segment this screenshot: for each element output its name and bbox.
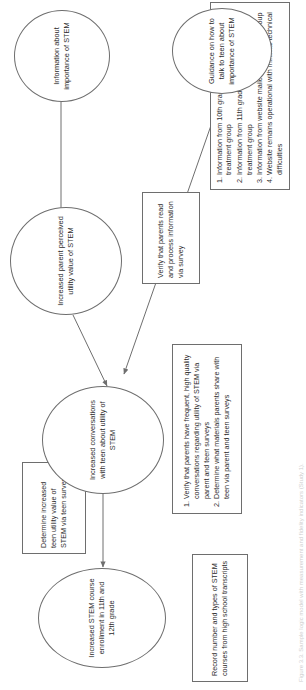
node-label: Guidance on how to talk to teen about im…	[207, 16, 237, 86]
node-outcome-stem-enrollment[interactable]: Increased STEM course enrollment in 11th…	[38, 568, 166, 668]
node-measure-conversations[interactable]: Verify that parents have frequent, high …	[172, 344, 242, 514]
node-label-list: Verify that parents have frequent, high …	[182, 350, 232, 508]
edge-parentutility-to-conversations	[73, 315, 107, 386]
node-label: Record number and types of STEM courses …	[210, 560, 230, 676]
node-input-information[interactable]: Information about importance of STEM	[14, 10, 110, 102]
figure-caption: Figure 3.3. Sample logic model with meas…	[298, 463, 304, 682]
node-input-guidance[interactable]: Guidance on how to talk to teen about im…	[172, 8, 272, 94]
node-label: Information about importance of STEM	[52, 18, 72, 94]
node-outcome-conversations[interactable]: Increased conversations with teen about …	[42, 386, 164, 494]
node-outcome-parent-utility[interactable]: Increased parent perceived utility value…	[10, 207, 122, 315]
list-item: Website remains operational with minimal…	[265, 8, 285, 175]
node-label: Increased conversations with teen about …	[88, 394, 118, 486]
node-label: Increased parent perceived utility value…	[56, 215, 76, 307]
list-item: Determine what materials parents share w…	[212, 350, 232, 499]
node-label: Verify that parents read and process inf…	[156, 198, 185, 278]
list-item: Verify that parents have frequent, high …	[182, 350, 211, 499]
diagram-canvas: Increased STEM course enrollment in 11th…	[0, 0, 306, 690]
node-measure-parent-reads[interactable]: Verify that parents read and process inf…	[142, 192, 200, 284]
node-label: Increased STEM course enrollment in 11th…	[87, 576, 117, 660]
node-measure-transcripts[interactable]: Record number and types of STEM courses …	[192, 554, 248, 682]
